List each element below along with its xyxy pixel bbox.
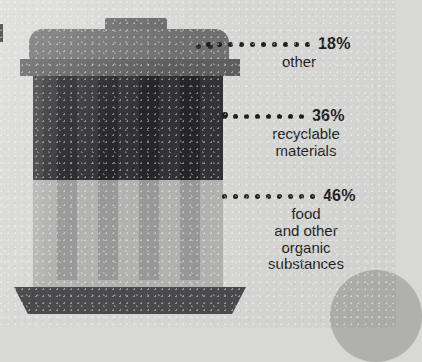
leader-dot bbox=[206, 42, 211, 47]
callout-other: 18% other bbox=[206, 36, 374, 71]
bin-body-highlight bbox=[33, 76, 43, 287]
leader-dot bbox=[233, 194, 238, 199]
leader-dot bbox=[261, 42, 266, 47]
callout-organic: 46% food and other organic substances bbox=[222, 188, 376, 273]
bin-rib-2 bbox=[98, 76, 118, 287]
leader-dot bbox=[283, 42, 288, 47]
leader-dot bbox=[277, 114, 282, 119]
callout-organic-leader: 46% bbox=[222, 188, 376, 204]
bin-rib-1 bbox=[57, 76, 77, 287]
callout-recyclable-percent: 36% bbox=[312, 108, 345, 124]
leader-dot bbox=[244, 114, 249, 119]
bin-base-shape bbox=[14, 287, 246, 314]
leader-dot bbox=[233, 114, 238, 119]
callout-other-percent: 18% bbox=[318, 36, 351, 52]
bin-rib-1-light bbox=[57, 180, 77, 280]
bin-rib-1-dark bbox=[57, 76, 77, 180]
callout-recyclable: 36% recyclable materials bbox=[222, 108, 376, 160]
leader-dot bbox=[294, 42, 299, 47]
dotted-leader-icon-other bbox=[206, 42, 310, 47]
bin-rib-3-light bbox=[139, 180, 159, 280]
leader-dot bbox=[305, 42, 310, 47]
leader-dot bbox=[299, 114, 304, 119]
leader-dot bbox=[255, 194, 260, 199]
dotted-leader-icon-organic bbox=[222, 194, 315, 199]
bin-rib-3-dark bbox=[139, 76, 159, 180]
leader-dot bbox=[239, 42, 244, 47]
crop-mark-left bbox=[0, 24, 3, 42]
dotted-leader-icon-recyclable bbox=[222, 114, 304, 119]
leader-dot bbox=[244, 194, 249, 199]
leader-dot bbox=[310, 194, 315, 199]
leader-dot bbox=[222, 194, 227, 199]
leader-dot bbox=[255, 114, 260, 119]
bin-rib-4 bbox=[180, 76, 200, 287]
leader-dot bbox=[217, 42, 222, 47]
bin-rib-2-light bbox=[98, 180, 118, 280]
callout-organic-percent: 46% bbox=[323, 188, 356, 204]
callout-other-label: other bbox=[224, 54, 374, 71]
leader-dot bbox=[277, 194, 282, 199]
leader-dot bbox=[250, 42, 255, 47]
bin-body-stacked-bar bbox=[33, 76, 223, 287]
corner-decoration-blob bbox=[330, 270, 422, 362]
bin-rib-4-light bbox=[180, 180, 200, 280]
lid-rivet-icon-1 bbox=[196, 44, 201, 49]
bin-rib-4-dark bbox=[180, 76, 200, 180]
bin-base bbox=[0, 287, 260, 316]
callout-other-leader: 18% bbox=[206, 36, 374, 52]
leader-dot bbox=[299, 194, 304, 199]
leader-dot bbox=[228, 42, 233, 47]
leader-dot bbox=[266, 114, 271, 119]
leader-dot bbox=[288, 114, 293, 119]
callout-recyclable-leader: 36% bbox=[222, 108, 376, 124]
callout-recyclable-label: recyclable materials bbox=[236, 126, 376, 160]
leader-dot bbox=[266, 194, 271, 199]
leader-dot bbox=[288, 194, 293, 199]
leader-dot bbox=[222, 114, 227, 119]
bin-rib-2-dark bbox=[98, 76, 118, 180]
bin-rib-3 bbox=[139, 76, 159, 287]
callout-organic-label: food and other organic substances bbox=[236, 206, 376, 273]
leader-dot bbox=[272, 42, 277, 47]
